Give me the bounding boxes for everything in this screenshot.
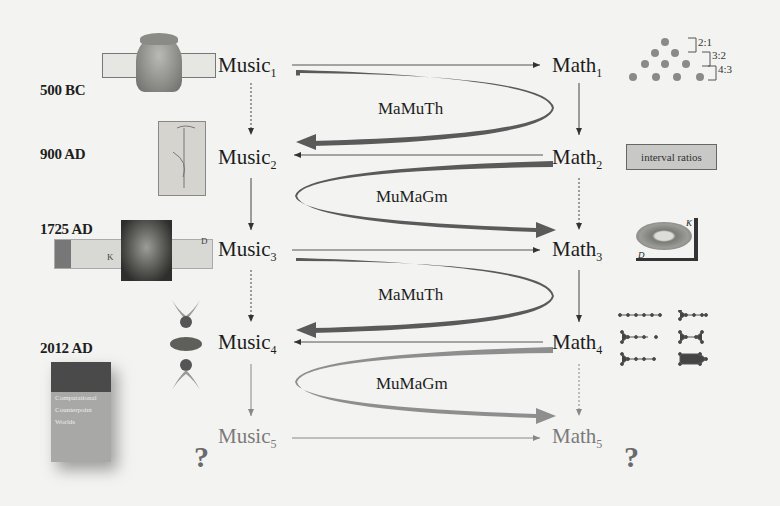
math-node-5-index: 5	[596, 437, 602, 451]
math-node-3: Math3	[552, 237, 602, 265]
music-node-4-base: Music	[218, 330, 271, 354]
math-node-5: Math5	[552, 424, 602, 452]
music-node-1-index: 1	[271, 66, 277, 80]
music-node-4: Music4	[218, 330, 277, 358]
math-node-4-base: Math	[552, 330, 596, 354]
music-node-3-base: Music	[218, 237, 271, 261]
music-node-3-index: 3	[271, 250, 277, 264]
question-mark-math: ?	[624, 440, 639, 474]
music-node-1: Music1	[218, 53, 277, 81]
music-node-2-base: Music	[218, 145, 271, 169]
music-node-2: Music2	[218, 145, 277, 173]
math-node-4: Math4	[552, 330, 602, 358]
music-node-1-base: Music	[218, 53, 271, 77]
math-node-3-base: Math	[552, 237, 596, 261]
music-node-5-base: Music	[218, 424, 271, 448]
math-node-2: Math2	[552, 145, 602, 173]
loop-label-mamuth-1: MaMuTh	[378, 99, 443, 119]
math-node-1: Math1	[552, 53, 602, 81]
music-node-5: Music5	[218, 424, 277, 452]
music-node-5-index: 5	[271, 437, 277, 451]
math-node-2-index: 2	[596, 158, 602, 172]
math-node-1-index: 1	[596, 66, 602, 80]
loop-label-mamuth-2: MaMuTh	[378, 285, 443, 305]
music-node-2-index: 2	[271, 158, 277, 172]
music-node-4-index: 4	[271, 343, 277, 357]
math-node-2-base: Math	[552, 145, 596, 169]
flow-arrows	[0, 0, 780, 506]
loop-label-mumagm-1: MuMaGm	[376, 187, 448, 207]
question-mark-music: ?	[194, 440, 209, 474]
math-node-3-index: 3	[596, 250, 602, 264]
math-node-5-base: Math	[552, 424, 596, 448]
music-node-3: Music3	[218, 237, 277, 265]
math-node-4-index: 4	[596, 343, 602, 357]
loop-label-mumagm-2: MuMaGm	[376, 374, 448, 394]
math-node-1-base: Math	[552, 53, 596, 77]
